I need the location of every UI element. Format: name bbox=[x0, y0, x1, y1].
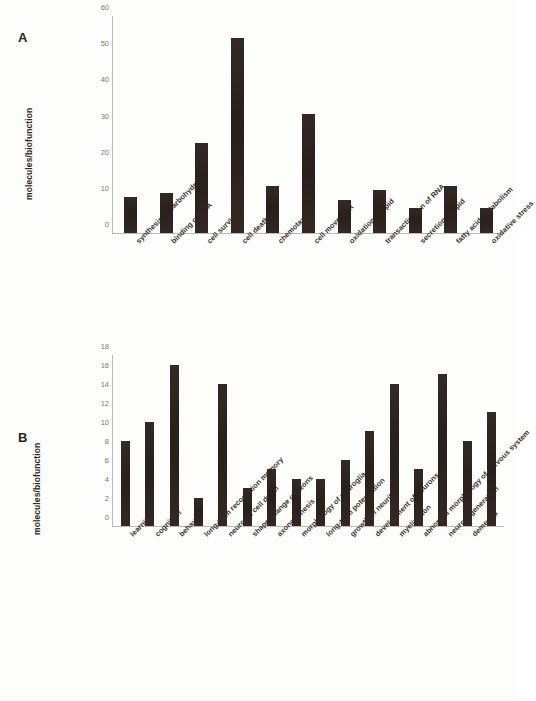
bar bbox=[438, 374, 447, 526]
bar bbox=[390, 384, 399, 527]
y-tick-label: 60 bbox=[87, 3, 109, 12]
bar bbox=[463, 441, 472, 527]
panel-a-plot-area: 0102030405060synthesis of carbohydratebi… bbox=[112, 16, 504, 234]
bar bbox=[316, 479, 325, 527]
y-tick-label: 50 bbox=[87, 39, 109, 48]
bar bbox=[444, 186, 457, 233]
panel-a-letter: A bbox=[18, 30, 28, 45]
bar bbox=[266, 186, 279, 233]
panel-b-yaxis-title: molecules/biofunction bbox=[32, 405, 42, 535]
panel-b-letter: B bbox=[18, 430, 28, 445]
y-tick-label: 0 bbox=[87, 220, 109, 229]
y-tick-label: 20 bbox=[87, 147, 109, 156]
panel-a: A molecules/biofunction 0102030405060syn… bbox=[0, 0, 516, 345]
y-tick-label: 12 bbox=[87, 399, 109, 408]
bar bbox=[145, 422, 154, 527]
bar bbox=[480, 208, 493, 233]
bar bbox=[338, 200, 351, 233]
bar bbox=[160, 193, 173, 233]
y-tick-label: 8 bbox=[87, 437, 109, 446]
bar bbox=[487, 412, 496, 526]
bar bbox=[194, 498, 203, 527]
bar bbox=[195, 143, 208, 233]
bar bbox=[124, 197, 137, 233]
bar bbox=[170, 365, 179, 527]
bar bbox=[302, 114, 315, 233]
y-tick-label: 4 bbox=[87, 475, 109, 484]
panel-b: B molecules/biofunction 024681012141618l… bbox=[0, 345, 516, 701]
bar bbox=[365, 431, 374, 526]
bar bbox=[373, 190, 386, 233]
y-tick-label: 30 bbox=[87, 111, 109, 120]
panel-b-plot-area: 024681012141618learningcognitionbehavior… bbox=[112, 355, 504, 527]
y-tick-label: 0 bbox=[87, 513, 109, 522]
panel-a-yaxis-title: molecules/biofunction bbox=[24, 70, 34, 200]
bar bbox=[267, 469, 276, 526]
bar bbox=[243, 488, 252, 526]
y-tick-label: 2 bbox=[87, 494, 109, 503]
bar bbox=[218, 384, 227, 527]
y-tick-label: 10 bbox=[87, 183, 109, 192]
bar bbox=[231, 38, 244, 233]
bar bbox=[292, 479, 301, 527]
y-tick-label: 14 bbox=[87, 380, 109, 389]
y-tick-label: 10 bbox=[87, 418, 109, 427]
bar bbox=[414, 469, 423, 526]
y-tick-label: 6 bbox=[87, 456, 109, 465]
y-tick-label: 40 bbox=[87, 75, 109, 84]
y-tick-label: 16 bbox=[87, 361, 109, 370]
bar bbox=[409, 208, 422, 233]
bar bbox=[341, 460, 350, 527]
bar bbox=[121, 441, 130, 527]
y-tick-label: 18 bbox=[87, 342, 109, 351]
